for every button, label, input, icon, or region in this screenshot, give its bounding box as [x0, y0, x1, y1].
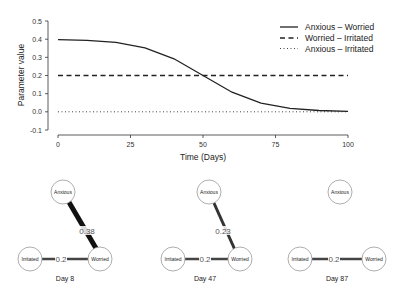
- x-tick: 100: [342, 141, 354, 148]
- y-tick: -0.1: [30, 127, 42, 134]
- node-anxious: Anxious: [54, 189, 72, 195]
- node-anxious: Anxious: [200, 189, 218, 195]
- legend-item-worried-irritated: Worried – Irritated: [305, 33, 373, 43]
- y-tick: 0.1: [32, 90, 42, 97]
- y-axis-label: Parameter value: [16, 44, 26, 107]
- x-tick: 0: [56, 141, 60, 148]
- x-tick: 25: [127, 141, 135, 148]
- day-label: Day 8: [56, 275, 74, 283]
- node-worried: Worried: [91, 256, 109, 262]
- x-tick: 50: [199, 141, 207, 148]
- node-irritated: Irritated: [292, 256, 309, 262]
- y-tick: 0.5: [32, 18, 42, 25]
- node-worried: Worried: [231, 256, 249, 262]
- y-tick: 0.0: [32, 108, 42, 115]
- figure: 0.5 0.4 0.3 0.2 0.1 0.0 -0.1 Parameter v…: [0, 0, 405, 298]
- node-irritated: Irritated: [165, 256, 182, 262]
- x-tick: 75: [272, 141, 280, 148]
- network-day-8: 0.2 0.38 Anxious Irritated Worried Day 8: [18, 180, 112, 283]
- node-irritated: Irritated: [22, 256, 39, 262]
- y-tick: 0.3: [32, 54, 42, 61]
- edge-label: 0.2: [328, 255, 340, 264]
- y-tick: 0.2: [32, 72, 42, 79]
- legend: Anxious – Worried Worried – Irritated An…: [280, 22, 375, 54]
- x-axis-label: Time (Days): [180, 152, 226, 162]
- day-label: Day 47: [194, 275, 216, 283]
- y-tick: 0.4: [32, 36, 42, 43]
- edge-label: 0.2: [199, 255, 211, 264]
- edge-label: 0.23: [215, 227, 231, 236]
- legend-item-anxious-worried: Anxious – Worried: [305, 22, 375, 32]
- edge-label: 0.2: [55, 255, 67, 264]
- day-label: Day 87: [326, 275, 348, 283]
- node-worried: Worried: [365, 256, 383, 262]
- edge-label: 0.38: [79, 227, 95, 236]
- x-axis: 0 25 50 75 100 Time (Days): [56, 135, 354, 162]
- network-day-47: 0.2 0.23 Anxious Irritated Worried Day 4…: [161, 180, 252, 283]
- legend-item-anxious-irritated: Anxious – Irritated: [305, 44, 374, 54]
- y-axis: 0.5 0.4 0.3 0.2 0.1 0.0 -0.1 Parameter v…: [16, 18, 48, 134]
- network-day-87: 0.2 Anxious Irritated Worried Day 87: [288, 180, 386, 283]
- node-anxious: Anxious: [331, 189, 349, 195]
